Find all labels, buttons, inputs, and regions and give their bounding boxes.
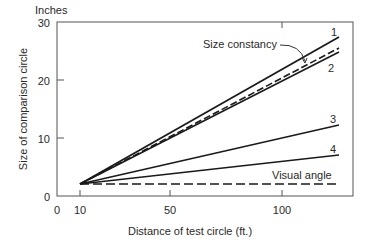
label-size-constancy: Size constancy xyxy=(203,38,277,50)
label-line-4: 4 xyxy=(330,143,336,155)
y-tick-30: 30 xyxy=(38,17,50,29)
chart: 30 20 10 0 0 10 50 100 Inches Distance o… xyxy=(0,0,374,245)
x-tick-0: 0 xyxy=(54,204,60,216)
y-tick-0: 0 xyxy=(44,191,50,203)
label-line-1: 1 xyxy=(331,26,337,38)
y-unit-label: Inches xyxy=(35,4,68,16)
y-tick-10: 10 xyxy=(38,133,50,145)
y-tick-20: 20 xyxy=(38,75,50,87)
label-line-2: 2 xyxy=(328,62,334,74)
y-axis-ticks xyxy=(57,80,64,138)
label-visual-angle: Visual angle xyxy=(272,169,332,181)
label-line-3: 3 xyxy=(330,113,336,125)
x-tick-100: 100 xyxy=(273,204,291,216)
line-2 xyxy=(80,52,339,184)
x-tick-50: 50 xyxy=(164,204,176,216)
y-axis-title: Size of comparison circle xyxy=(17,48,29,170)
x-tick-10: 10 xyxy=(74,204,86,216)
x-axis-title: Distance of test circle (ft.) xyxy=(128,225,252,237)
line-1 xyxy=(80,37,339,184)
